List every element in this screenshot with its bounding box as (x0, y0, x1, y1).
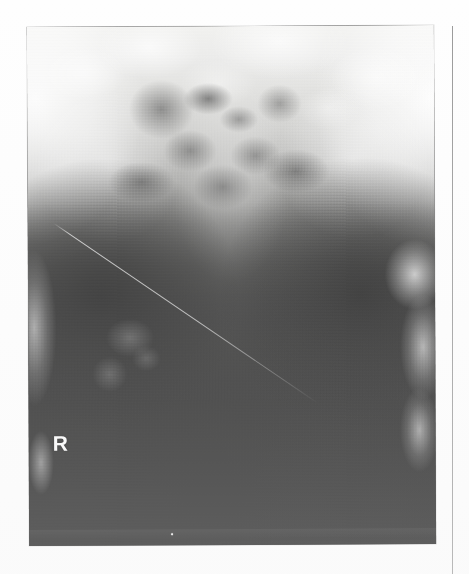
right-hip-joint-shadow (27, 25, 436, 546)
left-hip-joint-shadow (27, 25, 436, 546)
laterality-marker-r: R (53, 433, 69, 454)
page-margin-rule (452, 26, 453, 574)
pelvis-radiograph-figure: R (27, 25, 436, 546)
bowel-gas-shadows (27, 25, 436, 546)
film-exposure-gradient (27, 25, 436, 546)
left-flank-soft-tissue (27, 25, 436, 546)
scanned-page: R (0, 0, 469, 574)
iliac-wing-bone-shadow (27, 25, 436, 546)
film-scratch-artifact (53, 223, 318, 404)
lower-pelvis-gas-shadow (27, 25, 436, 546)
pelvic-soft-tissue-mass (27, 25, 436, 546)
film-grain-texture (27, 25, 436, 546)
right-flank-soft-tissue (27, 25, 436, 546)
sacrum-vertebral-shadow (27, 25, 436, 546)
film-bottom-edge-band (29, 528, 436, 540)
